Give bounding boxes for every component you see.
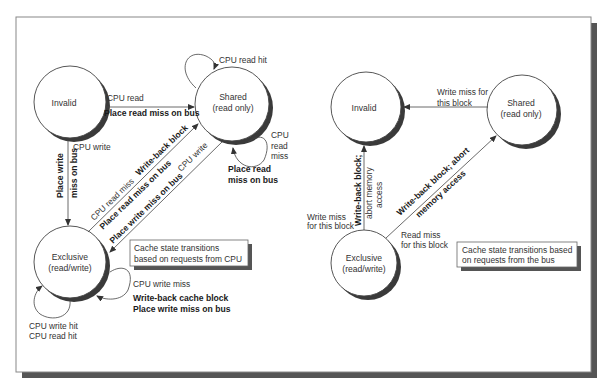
svg-text:Cache state transitions based: Cache state transitions based xyxy=(462,245,573,255)
svg-text:CPU: CPU xyxy=(271,130,289,140)
svg-text:for this block: for this block xyxy=(401,240,449,250)
svg-text:abort memory: abort memory xyxy=(364,167,374,219)
svg-text:miss on bus: miss on bus xyxy=(228,175,278,185)
svg-text:this block: this block xyxy=(437,98,473,108)
svg-text:CPU write miss: CPU write miss xyxy=(133,279,190,289)
state-label: Invalid xyxy=(352,103,377,113)
state-label: Exclusive xyxy=(346,253,383,263)
svg-text:based on requests from CPU: based on requests from CPU xyxy=(134,254,242,264)
svg-text:Write-back block;: Write-back block; xyxy=(353,154,363,226)
svg-text:on requests from the bus: on requests from the bus xyxy=(462,255,555,265)
state-label: Invalid xyxy=(52,98,77,108)
svg-text:access: access xyxy=(374,182,384,208)
state-sublabel: (read only) xyxy=(500,109,541,119)
state-label: Shared xyxy=(219,92,247,102)
state-label: Shared xyxy=(507,98,535,108)
coherence-state-diagram: Invalid Shared (read only) Exclusive (re… xyxy=(0,0,612,390)
caption-bus-requests: Cache state transitions based on request… xyxy=(457,242,581,271)
svg-text:read: read xyxy=(271,141,288,151)
svg-text:CPU write hit: CPU write hit xyxy=(29,321,79,331)
svg-text:CPU read: CPU read xyxy=(107,93,144,103)
svg-text:Write-back cache block: Write-back cache block xyxy=(133,293,229,303)
svg-text:miss: miss xyxy=(271,151,288,161)
svg-text:Read miss: Read miss xyxy=(401,230,441,240)
state-sublabel: (read only) xyxy=(212,103,253,113)
state-sublabel: (read/write) xyxy=(48,263,92,273)
svg-text:Cache state transitions: Cache state transitions xyxy=(134,243,219,253)
svg-text:CPU read hit: CPU read hit xyxy=(219,55,268,65)
svg-text:Write miss for: Write miss for xyxy=(437,87,488,97)
svg-text:CPU read hit: CPU read hit xyxy=(29,331,78,341)
svg-text:Place write miss on bus: Place write miss on bus xyxy=(133,304,231,314)
svg-text:for this block: for this block xyxy=(307,221,355,231)
svg-text:miss on bus: miss on bus xyxy=(69,148,79,198)
svg-text:Place read: Place read xyxy=(228,164,271,174)
svg-text:Place write: Place write xyxy=(55,153,65,198)
state-sublabel: (read/write) xyxy=(342,264,386,274)
caption-cpu-requests: Cache state transitions based on request… xyxy=(130,240,252,270)
svg-text:Place read miss on bus: Place read miss on bus xyxy=(104,108,200,118)
figure-frame xyxy=(16,17,597,378)
state-label: Exclusive xyxy=(52,252,89,262)
